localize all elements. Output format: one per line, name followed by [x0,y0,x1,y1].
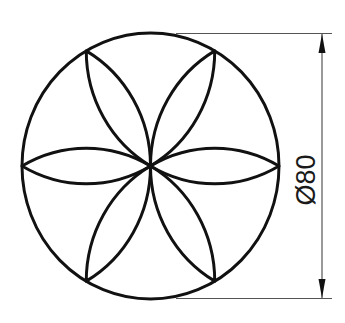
arrowhead-top-icon [319,34,326,53]
arrowhead-bottom-icon [319,279,326,298]
rosette-figure [22,33,279,299]
diameter-dimension-label: Ø80 [293,154,320,205]
